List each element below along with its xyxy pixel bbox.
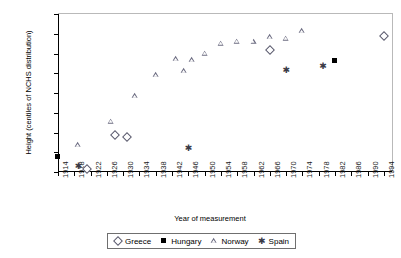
x-tick-label: 1930 [126, 167, 135, 178]
marker-triangle-icon [250, 38, 256, 43]
plot-right-border [392, 13, 393, 173]
marker-triangle-icon [132, 93, 138, 98]
x-tick-label: 1946 [191, 167, 200, 178]
x-tick-mark [319, 172, 320, 176]
marker-triangle-icon [283, 35, 289, 40]
x-tick-mark [74, 172, 75, 176]
x-tick-label: 1934 [142, 167, 151, 178]
x-tick-mark [205, 172, 206, 176]
x-tick-mark [335, 172, 336, 176]
marker-triangle-icon [266, 34, 272, 39]
legend-swatch [114, 237, 122, 245]
x-tick-label: 1938 [159, 167, 168, 178]
x-tick-mark [188, 172, 189, 176]
y-tick-mark [54, 152, 58, 153]
chart-container: Height (centiles of NCHS distribution) 0… [0, 0, 401, 258]
x-tick-label: 1994 [387, 167, 396, 178]
legend-swatch [160, 237, 168, 245]
x-tick-label: 1962 [257, 167, 266, 178]
x-tick-mark [139, 172, 140, 176]
marker-triangle-icon [189, 57, 195, 62]
x-tick-mark [91, 172, 92, 176]
legend-label: Hungary [171, 237, 201, 246]
legend-label: Norway [221, 237, 248, 246]
x-tick-label: 1922 [94, 167, 103, 178]
marker-triangle-icon [201, 50, 207, 55]
y-tick-mark [54, 73, 58, 74]
marker-star-icon: ✱ [75, 163, 82, 170]
x-tick-mark [156, 172, 157, 176]
x-tick-label: 1990 [371, 167, 380, 178]
marker-square-icon [332, 58, 337, 63]
marker-triangle-icon [299, 28, 305, 33]
legend-entry: Norway [210, 237, 248, 246]
x-tick-mark [221, 172, 222, 176]
x-tick-label: 1926 [110, 167, 119, 178]
marker-square-icon [55, 154, 60, 159]
plot-area [58, 14, 392, 172]
marker-star-icon: ✱ [185, 145, 192, 152]
x-tick-label: 1950 [208, 167, 217, 178]
y-tick-mark [54, 34, 58, 35]
marker-square-icon [161, 238, 166, 243]
chart-legend: GreeceHungaryNorway✱Spain [107, 233, 296, 249]
marker-triangle-icon [211, 238, 217, 243]
marker-triangle-icon [75, 142, 81, 147]
marker-triangle-icon [108, 118, 114, 123]
y-tick-mark [54, 133, 58, 134]
x-tick-label: 1974 [305, 167, 314, 178]
marker-triangle-icon [173, 56, 179, 61]
x-tick-label: 1986 [354, 167, 363, 178]
x-tick-mark [172, 172, 173, 176]
x-tick-mark [368, 172, 369, 176]
x-tick-mark [351, 172, 352, 176]
x-tick-label: 1982 [338, 167, 347, 178]
x-tick-mark [58, 172, 59, 176]
x-tick-label: 1970 [289, 167, 298, 178]
x-tick-label: 1942 [175, 167, 184, 178]
y-tick-mark [54, 93, 58, 94]
x-tick-mark [107, 172, 108, 176]
y-tick-mark [54, 14, 58, 15]
y-tick-mark [54, 113, 58, 114]
x-tick-label: 1914 [61, 167, 70, 178]
x-tick-mark [286, 172, 287, 176]
legend-entry: Greece [114, 237, 151, 246]
x-tick-mark [254, 172, 255, 176]
legend-entry: Hungary [160, 237, 201, 246]
marker-star-icon: ✱ [283, 67, 290, 74]
x-tick-mark [237, 172, 238, 176]
marker-triangle-icon [181, 68, 187, 73]
legend-label: Spain [269, 237, 289, 246]
marker-diamond-icon [113, 236, 123, 246]
x-tick-label: 1958 [240, 167, 249, 178]
x-tick-mark [270, 172, 271, 176]
y-axis-title: Height (centiles of NCHS distribution) [24, 13, 33, 173]
x-axis-title: Year of measurement [150, 214, 270, 223]
marker-star-icon: ✱ [319, 63, 326, 70]
y-tick-mark [54, 54, 58, 55]
x-tick-mark [123, 172, 124, 176]
legend-swatch: ✱ [258, 237, 266, 245]
x-tick-mark [302, 172, 303, 176]
legend-swatch [210, 237, 218, 245]
marker-triangle-icon [152, 72, 158, 77]
x-tick-label: 1978 [322, 167, 331, 178]
x-tick-mark [384, 172, 385, 176]
legend-entry: ✱Spain [258, 237, 289, 246]
x-tick-label: 1966 [273, 167, 282, 178]
marker-star-icon: ✱ [258, 238, 265, 245]
x-tick-label: 1954 [224, 167, 233, 178]
legend-label: Greece [125, 237, 151, 246]
marker-triangle-icon [234, 38, 240, 43]
marker-triangle-icon [218, 40, 224, 45]
